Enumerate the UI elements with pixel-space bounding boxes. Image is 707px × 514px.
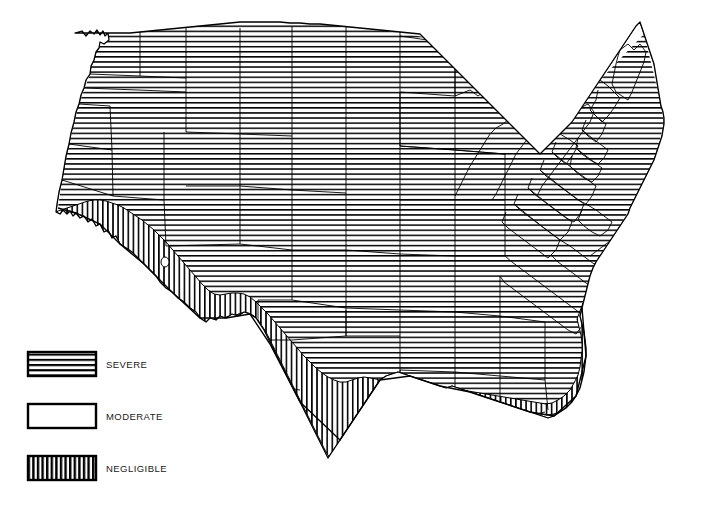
map-figure: SEVERE MODERATE NEGLIGIBLE	[0, 0, 707, 514]
legend-swatch-severe	[28, 352, 96, 376]
legend-label-severe: SEVERE	[106, 359, 147, 370]
legend-label-negligible: NEGLIGIBLE	[106, 463, 167, 474]
legend-label-moderate: MODERATE	[106, 411, 163, 422]
inland-lake-marker	[161, 257, 169, 267]
us-severity-map: SEVERE MODERATE NEGLIGIBLE	[0, 0, 707, 514]
legend-swatch-negligible	[28, 456, 96, 480]
legend-swatch-moderate	[28, 404, 96, 428]
